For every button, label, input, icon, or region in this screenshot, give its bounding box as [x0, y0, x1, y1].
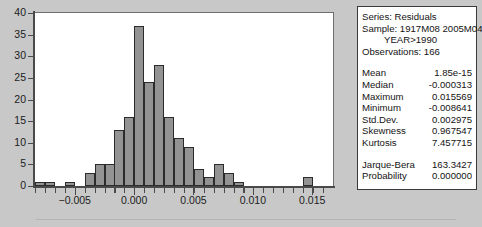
stats-spacer-2	[362, 149, 472, 159]
x-axis-tick	[95, 188, 96, 193]
statistic-row: Minimum-0.008641	[362, 102, 472, 114]
y-axis-tick-label: 0	[0, 180, 26, 190]
summary-statistics-list: Mean1.85e-15Median-0.000313Maximum0.0155…	[362, 67, 472, 148]
statistic-row: Std.Dev.0.002975	[362, 114, 472, 126]
y-axis-tick	[28, 13, 34, 14]
histogram-bar	[114, 130, 124, 186]
x-axis-tick	[273, 188, 274, 193]
x-axis-tick	[303, 188, 304, 193]
observations-label: Observations: 166	[362, 46, 472, 58]
y-axis-tick-label: 15	[0, 115, 26, 125]
histogram-bar	[35, 182, 45, 186]
x-axis-tick	[204, 188, 205, 193]
histogram-chart: 0510152025303540 −0.0050.0000.0050.0100.…	[0, 0, 345, 210]
histogram-bar	[65, 182, 75, 186]
histogram-bar	[303, 177, 313, 186]
histogram-bar	[85, 173, 95, 186]
histogram-bars	[35, 13, 333, 186]
x-axis-tick	[154, 188, 155, 193]
stat-label: Median	[362, 79, 393, 91]
histogram-bar	[134, 26, 144, 186]
x-axis-tick	[124, 188, 125, 193]
y-axis-tick	[28, 100, 34, 101]
statistics-box: Series: Residuals Sample: 1917M08 2005M0…	[357, 6, 477, 190]
stats-spacer-1	[362, 57, 472, 67]
x-axis-tick	[184, 188, 185, 193]
y-axis-tick	[28, 121, 34, 122]
x-axis-tick	[243, 188, 244, 193]
series-label: Series: Residuals	[362, 11, 472, 23]
x-axis-tick	[283, 188, 284, 193]
stat-label: Jarque-Bera	[362, 159, 415, 171]
y-axis-tick-label: 10	[0, 137, 26, 147]
y-axis-tick	[28, 78, 34, 79]
histogram-bar	[164, 117, 174, 186]
histogram-bar	[144, 82, 154, 186]
stat-value: 7.457715	[432, 137, 472, 149]
x-axis-tick	[144, 188, 145, 193]
x-axis-tick	[323, 188, 324, 193]
x-axis-tick	[224, 188, 225, 193]
y-axis-tick	[28, 143, 34, 144]
stat-value: -0.008641	[429, 102, 472, 114]
x-axis-tick-label: 0.015	[282, 194, 342, 206]
footer-divider	[36, 219, 456, 220]
statistic-row: Maximum0.015569	[362, 91, 472, 103]
x-axis-tick	[214, 188, 215, 193]
histogram-stats-screenshot: 0510152025303540 −0.0050.0000.0050.0100.…	[0, 0, 482, 227]
x-axis-tick	[234, 188, 235, 193]
histogram-bar	[204, 177, 214, 186]
test-statistic-row: Probability0.000000	[362, 170, 472, 182]
stat-value: 163.3427	[432, 159, 472, 171]
statistic-row: Mean1.85e-15	[362, 67, 472, 79]
x-axis-tick	[263, 188, 264, 193]
histogram-bar	[224, 173, 234, 186]
test-statistic-row: Jarque-Bera163.3427	[362, 159, 472, 171]
statistic-row: Skewness0.967547	[362, 125, 472, 137]
stat-label: Minimum	[362, 102, 401, 114]
y-axis-tick-label: 40	[0, 7, 26, 17]
sample-label-cont: YEAR>1990	[362, 34, 472, 46]
stat-label: Maximum	[362, 91, 404, 103]
y-axis-tick	[28, 35, 34, 36]
stat-value: -0.000313	[429, 79, 472, 91]
stat-label: Kurtosis	[362, 137, 397, 149]
x-axis-tick	[45, 188, 46, 193]
statistic-row: Kurtosis7.457715	[362, 137, 472, 149]
stat-label: Std.Dev.	[362, 114, 398, 126]
x-axis-tick	[35, 188, 36, 193]
histogram-bar	[105, 164, 115, 186]
histogram-bar	[194, 169, 204, 186]
histogram-bar	[154, 65, 164, 186]
y-axis-tick-label: 35	[0, 29, 26, 39]
y-axis-tick-label: 5	[0, 158, 26, 168]
stat-label: Skewness	[362, 125, 406, 137]
y-axis-tick-label: 30	[0, 50, 26, 60]
x-axis-tick	[65, 188, 66, 193]
x-axis-tick	[55, 188, 56, 193]
histogram-bar	[234, 182, 244, 186]
histogram-bar	[214, 164, 224, 186]
y-axis-tick	[28, 186, 34, 187]
y-axis-tick-label: 25	[0, 72, 26, 82]
x-axis-tick	[114, 188, 115, 193]
stat-label: Probability	[362, 170, 407, 182]
stat-value: 0.000000	[432, 170, 472, 182]
sample-label: Sample: 1917M08 2005M04 IF	[362, 23, 472, 35]
x-axis-tick	[293, 188, 294, 193]
x-axis-tick	[85, 188, 86, 193]
stat-value: 0.967547	[432, 125, 472, 137]
histogram-bar	[174, 138, 184, 186]
statistic-row: Median-0.000313	[362, 79, 472, 91]
x-axis-tick-label: −0.005	[45, 194, 105, 206]
y-axis-tick	[28, 164, 34, 165]
x-axis-tick-label: 0.000	[104, 194, 164, 206]
stat-label: Mean	[362, 67, 386, 79]
histogram-bar	[45, 182, 55, 186]
histogram-bar	[95, 164, 105, 186]
histogram-bar	[124, 117, 134, 186]
stat-value: 0.002975	[432, 114, 472, 126]
y-axis-tick	[28, 56, 34, 57]
x-axis-tick	[105, 188, 106, 193]
histogram-bar	[184, 147, 194, 186]
